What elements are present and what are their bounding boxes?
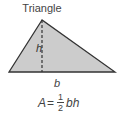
- fraction-numerator: 1: [57, 92, 64, 103]
- triangle-polygon: [9, 20, 115, 72]
- formula-equals: =: [47, 96, 54, 110]
- formula-fraction: 1 2: [57, 92, 64, 113]
- base-label: b: [54, 77, 60, 89]
- fraction-denominator: 2: [58, 103, 63, 113]
- formula-rhs: bh: [66, 96, 79, 110]
- area-formula: A = 1 2 bh: [38, 92, 79, 113]
- height-label: h: [36, 42, 42, 54]
- formula-lhs: A: [38, 96, 46, 110]
